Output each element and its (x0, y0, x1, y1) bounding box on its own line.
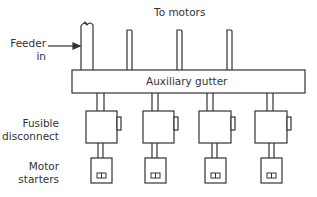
fusible-label-line1: Fusible (0, 117, 59, 130)
motor-conduit-2 (177, 30, 182, 70)
diagram-canvas: To motors Feeder in Auxiliary gutter Fus… (0, 0, 317, 197)
feeder-conduit (81, 22, 93, 70)
fusible-disconnect-2 (143, 111, 174, 143)
feeder-label-line1: Feeder (0, 37, 46, 50)
fusible-disconnect-label: Fusible disconnect (0, 117, 59, 143)
disconnect-handle-2 (174, 117, 178, 130)
motor-starter-4 (261, 158, 282, 183)
branch-unit-3 (199, 93, 235, 183)
feeder-in-label: Feeder in (0, 37, 46, 63)
motor-conduit-3 (227, 30, 232, 70)
branch-unit-2 (143, 93, 178, 183)
disconnect-handle-3 (231, 117, 235, 130)
motor-starters-label: Motor starters (0, 160, 59, 186)
branch-unit-4 (255, 93, 291, 183)
fusible-label-line2: disconnect (0, 130, 59, 143)
branch-unit-1 (86, 93, 121, 183)
motor-starter-3 (205, 158, 226, 183)
feeder-arrow-icon (48, 43, 80, 49)
motor-starter-2 (145, 158, 166, 183)
fusible-disconnect-1 (86, 111, 117, 143)
disconnect-handle-1 (117, 117, 121, 130)
gutter-label: Auxiliary gutter (146, 75, 227, 88)
disconnect-handle-4 (287, 117, 291, 130)
motor-label-line2: starters (0, 173, 59, 186)
to-motors-label: To motors (154, 6, 205, 19)
motor-conduit-1 (127, 30, 132, 70)
motor-starter-1 (91, 158, 112, 183)
fusible-disconnect-4 (255, 111, 287, 143)
motor-label-line1: Motor (0, 160, 59, 173)
feeder-label-line2: in (0, 50, 46, 63)
fusible-disconnect-3 (199, 111, 231, 143)
